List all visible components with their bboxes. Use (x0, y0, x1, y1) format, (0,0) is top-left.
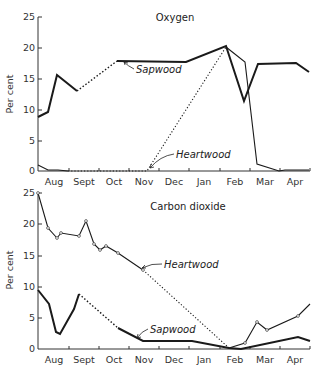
y-tick-label: 20 (23, 218, 35, 229)
x-tick-label: Apr (287, 354, 304, 365)
oxygen-x-tick-labels: Aug Sept Oct Nov Dec Jan Feb Mar Apr (45, 176, 304, 187)
y-tick-label: 15 (23, 250, 35, 261)
chart-figure: Oxygen Per cent 0 5 10 15 20 25 (0, 0, 328, 372)
y-tick-label: 0 (29, 165, 35, 176)
x-tick-label: Oct (106, 176, 123, 187)
x-tick-label: Nov (135, 354, 154, 365)
co2-chart: Carbon dioxide Per cent 0 5 10 15 20 25 (4, 187, 310, 365)
co2-sapwood-label: Sapwood (150, 324, 196, 335)
co2-heartwood-label: Heartwood (164, 259, 219, 270)
x-tick-label: Sept (73, 354, 95, 365)
x-tick-label: Nov (135, 176, 154, 187)
co2-heartwood-annotation: Heartwood (142, 259, 219, 270)
oxygen-chart: Oxygen Per cent 0 5 10 15 20 25 (4, 11, 310, 187)
x-tick-label: Jan (196, 176, 212, 187)
oxygen-title: Oxygen (156, 12, 195, 23)
oxygen-heartwood-label: Heartwood (176, 149, 231, 160)
y-tick-label: 20 (23, 42, 35, 53)
x-tick-label: Aug (45, 354, 64, 365)
y-tick-label: 5 (29, 135, 35, 146)
oxygen-y-axis-label: Per cent (4, 74, 15, 113)
x-tick-label: Jan (196, 354, 212, 365)
co2-sapwood-annotation: Sapwood (137, 324, 196, 338)
x-tick-label: Dec (165, 354, 183, 365)
oxygen-y-axis: 0 5 10 15 20 25 (23, 11, 310, 176)
y-tick-label: 10 (23, 281, 35, 292)
x-tick-label: Feb (227, 354, 244, 365)
y-tick-label: 15 (23, 73, 35, 84)
x-tick-label: Sept (73, 176, 95, 187)
co2-title: Carbon dioxide (150, 201, 225, 212)
y-tick-label: 25 (23, 187, 35, 198)
co2-x-tick-labels: Aug Sept Oct Nov Dec Jan Feb Mar Apr (45, 354, 304, 365)
x-tick-label: Apr (287, 176, 304, 187)
y-tick-label: 5 (29, 312, 35, 323)
x-tick-label: Mar (256, 354, 274, 365)
y-tick-label: 25 (23, 11, 35, 22)
co2-y-axis-label: Per cent (4, 250, 15, 289)
oxygen-sapwood-label: Sapwood (136, 64, 182, 75)
x-tick-label: Dec (165, 176, 183, 187)
oxygen-sapwood-annotation: Sapwood (124, 62, 182, 75)
oxygen-sapwood-line (38, 46, 309, 117)
x-tick-label: Feb (227, 176, 244, 187)
x-tick-label: Mar (256, 176, 274, 187)
oxygen-heartwood-annotation: Heartwood (150, 149, 231, 168)
x-tick-label: Aug (45, 176, 64, 187)
y-tick-label: 0 (29, 343, 35, 354)
x-tick-label: Oct (106, 354, 123, 365)
y-tick-label: 10 (23, 104, 35, 115)
